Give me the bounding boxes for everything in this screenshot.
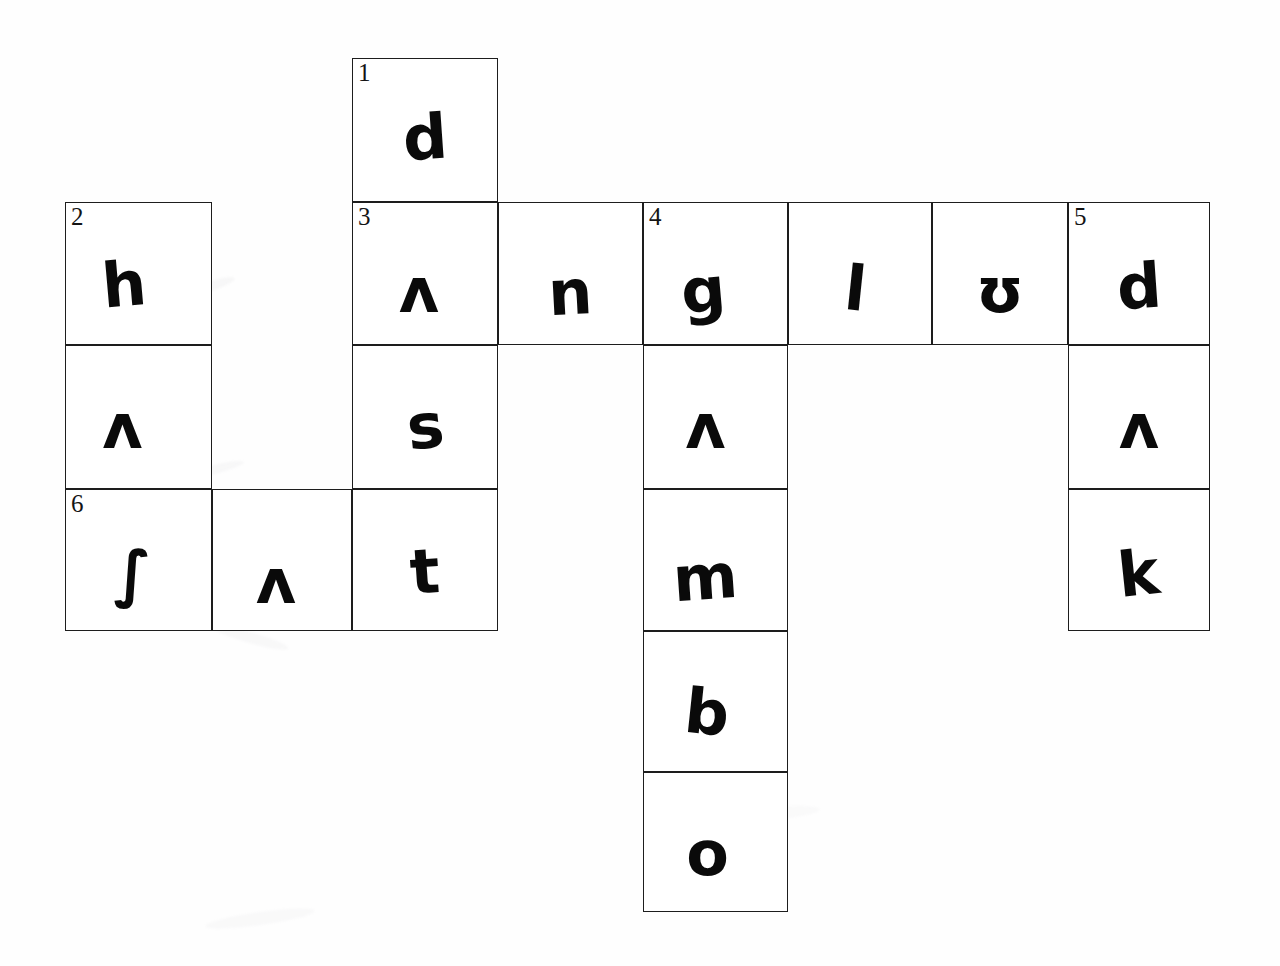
crossword-cell[interactable]: n — [498, 202, 643, 345]
handwritten-glyph: ʌ — [399, 254, 439, 327]
cell-letter: l — [789, 203, 931, 344]
cell-letter: g — [644, 203, 787, 344]
crossword-cell[interactable]: 4g — [643, 202, 788, 345]
handwritten-glyph: g — [678, 252, 729, 329]
cell-letter: n — [499, 203, 642, 344]
paper-smudge — [205, 904, 316, 932]
handwritten-glyph: o — [686, 817, 729, 890]
handwritten-glyph: s — [403, 388, 447, 464]
handwritten-glyph: h — [99, 246, 149, 323]
handwritten-glyph: ʊ — [976, 254, 1024, 327]
crossword-cell[interactable]: s — [352, 345, 498, 489]
crossword-cell[interactable]: 6∫ — [65, 489, 212, 631]
cell-letter: d — [1069, 203, 1209, 344]
crossword-cell[interactable]: ʌ — [643, 345, 788, 489]
handwritten-glyph: ʌ — [1119, 390, 1159, 463]
crossword-sheet: 1d2h3ʌn4glʊ5dʌsʌʌ6∫ʌtmkbo — [0, 0, 1280, 966]
handwritten-glyph: t — [408, 534, 443, 609]
cell-letter: ʌ — [213, 490, 351, 630]
crossword-cell[interactable]: m — [643, 489, 788, 631]
crossword-cell[interactable]: ʌ — [1068, 345, 1210, 489]
handwritten-glyph: ∫ — [114, 537, 152, 610]
cell-letter: m — [644, 490, 787, 630]
handwritten-glyph: b — [682, 674, 734, 751]
handwritten-glyph: m — [671, 538, 741, 615]
crossword-cell[interactable]: t — [352, 489, 498, 631]
cell-letter: ʊ — [933, 203, 1067, 344]
cell-letter: k — [1069, 490, 1209, 630]
cell-letter: ʌ — [353, 203, 497, 344]
handwritten-glyph: n — [547, 255, 595, 330]
handwritten-glyph: ʌ — [256, 545, 296, 618]
cell-letter: t — [353, 490, 497, 630]
crossword-cell[interactable]: ʌ — [65, 345, 212, 489]
crossword-cell[interactable]: l — [788, 202, 932, 345]
handwritten-glyph: d — [1114, 249, 1163, 325]
handwritten-glyph: ʌ — [685, 390, 725, 463]
crossword-cell[interactable]: 3ʌ — [352, 202, 498, 345]
crossword-cell[interactable]: b — [643, 631, 788, 772]
cell-letter: h — [66, 203, 211, 344]
cell-letter: ʌ — [644, 346, 787, 488]
cell-letter: d — [353, 59, 497, 201]
crossword-cell[interactable]: 2h — [65, 202, 212, 345]
cell-letter: b — [644, 632, 787, 771]
crossword-cell[interactable]: o — [643, 772, 788, 912]
crossword-cell[interactable]: 1d — [352, 58, 498, 202]
cell-letter: ʌ — [1069, 346, 1209, 488]
cell-letter: s — [353, 346, 497, 488]
cell-letter: ʌ — [66, 346, 211, 488]
handwritten-glyph: k — [1115, 535, 1164, 612]
crossword-cell[interactable]: 5d — [1068, 202, 1210, 345]
handwritten-glyph: l — [842, 251, 871, 326]
crossword-cell[interactable]: k — [1068, 489, 1210, 631]
crossword-cell[interactable]: ʊ — [932, 202, 1068, 345]
crossword-cell[interactable]: ʌ — [212, 489, 352, 631]
handwritten-glyph: ʌ — [102, 390, 142, 463]
handwritten-glyph: d — [400, 99, 449, 175]
cell-letter: o — [644, 773, 787, 911]
cell-letter: ∫ — [66, 490, 211, 630]
